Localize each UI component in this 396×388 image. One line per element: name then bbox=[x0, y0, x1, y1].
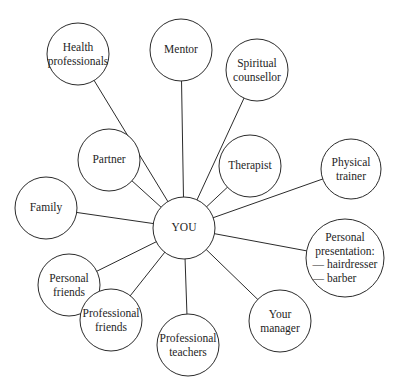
node-label-line: Personal bbox=[313, 231, 378, 245]
node-label-you: YOU bbox=[172, 221, 197, 235]
node-label-spiritual-counsellor: Spiritualcounsellor bbox=[233, 57, 281, 84]
node-label-line: counsellor bbox=[233, 70, 281, 84]
node-label-personal-friends: Personalfriends bbox=[49, 272, 89, 299]
node-label-family: Family bbox=[30, 201, 63, 215]
node-label-line: Your bbox=[260, 308, 300, 322]
node-label-line: Therapist bbox=[228, 159, 271, 173]
node-label-mentor: Mentor bbox=[164, 43, 198, 57]
node-label-line: professionals bbox=[48, 54, 109, 68]
node-label-line: — barber bbox=[313, 272, 378, 286]
node-label-line: Family bbox=[30, 201, 63, 215]
node-label-line: Professional bbox=[160, 332, 217, 346]
nodes-layer bbox=[15, 19, 384, 376]
node-label-line: trainer bbox=[332, 169, 371, 183]
node-label-partner: Partner bbox=[92, 153, 125, 167]
node-label-line: manager bbox=[260, 321, 300, 335]
node-label-line: — hairdresser bbox=[313, 258, 378, 272]
node-label-health-professionals: Healthprofessionals bbox=[48, 41, 109, 68]
node-label-line: presentation: bbox=[313, 245, 378, 259]
node-label-line: YOU bbox=[172, 221, 197, 235]
node-label-line: Professional bbox=[83, 307, 140, 321]
node-label-professional-teachers: Professionalteachers bbox=[160, 332, 217, 359]
node-label-line: Mentor bbox=[164, 43, 198, 57]
node-label-line: friends bbox=[83, 320, 140, 334]
node-label-line: Spiritual bbox=[233, 57, 281, 71]
node-label-your-manager: Yourmanager bbox=[260, 308, 300, 335]
node-label-professional-friends: Professionalfriends bbox=[83, 307, 140, 334]
node-label-line: friends bbox=[49, 285, 89, 299]
node-label-line: Health bbox=[48, 41, 109, 55]
node-label-line: Partner bbox=[92, 153, 125, 167]
node-label-personal-presentation: Personalpresentation:— hairdresser— barb… bbox=[313, 231, 378, 285]
node-label-therapist: Therapist bbox=[228, 159, 271, 173]
node-label-line: teachers bbox=[160, 345, 217, 359]
node-label-physical-trainer: Physicaltrainer bbox=[332, 156, 371, 183]
node-label-line: Physical bbox=[332, 156, 371, 170]
node-label-line: Personal bbox=[49, 272, 89, 286]
support-network-diagram: YOUHealthprofessionalsMentorSpiritualcou… bbox=[0, 0, 396, 388]
